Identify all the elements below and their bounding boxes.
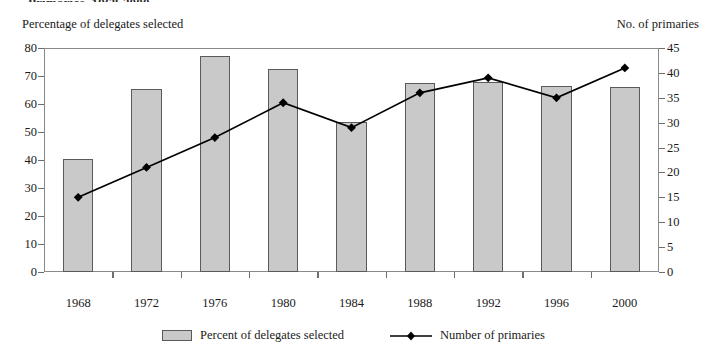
x-axis-label: 2000: [612, 296, 637, 311]
y-tick-label-right: 0: [667, 266, 673, 279]
line-marker-diamond: [279, 98, 288, 107]
y-tick-label-left: 10: [25, 238, 38, 251]
line-marker-diamond: [74, 193, 83, 202]
y-tick-label-left: 40: [25, 154, 38, 167]
y-tick-label-right: 15: [667, 191, 680, 204]
x-axis-label: 1972: [134, 296, 159, 311]
x-tick-mark: [317, 272, 318, 278]
y-tick-label-left: 70: [25, 70, 38, 83]
y-tick-label-right: 40: [667, 67, 680, 80]
y-tick-label-left: 20: [25, 210, 38, 223]
y-tick-label-left: 30: [25, 182, 38, 195]
chart-title-clipped: Primaries, 1968-2000: [28, 0, 150, 2]
x-axis-label: 1996: [544, 296, 569, 311]
right-axis-caption: No. of primaries: [617, 17, 699, 32]
x-axis-label: 1984: [339, 296, 364, 311]
y-tick-mark-left: [38, 272, 44, 273]
line-marker-diamond: [552, 93, 561, 102]
y-tick-label-right: 10: [667, 216, 680, 229]
line-marker-diamond: [347, 123, 356, 132]
chart-legend: Percent of delegates selected Number of …: [0, 328, 707, 343]
x-tick-mark: [522, 272, 523, 278]
plot-area: 01020304050607080 051015202530354045: [44, 48, 659, 272]
line-marker-diamond: [620, 64, 629, 73]
y-tick-label-right: 45: [667, 42, 680, 55]
y-tick-mark-right: [659, 272, 665, 273]
y-tick-label-right: 20: [667, 166, 680, 179]
y-tick-mark-right: [659, 172, 665, 173]
legend-item-bars: Percent of delegates selected: [162, 328, 344, 343]
line-series: [44, 48, 659, 272]
y-tick-label-left: 60: [25, 98, 38, 111]
y-tick-label-left: 0: [31, 266, 37, 279]
line-swatch-icon: [390, 330, 432, 342]
bar-swatch-icon: [162, 330, 192, 341]
y-tick-label-right: 5: [667, 241, 673, 254]
line-path: [78, 68, 625, 197]
x-axis-label: 1992: [476, 296, 501, 311]
y-tick-mark-right: [659, 247, 665, 248]
x-tick-mark: [386, 272, 387, 278]
y-tick-mark-right: [659, 123, 665, 124]
x-tick-mark: [249, 272, 250, 278]
x-axis-label: 1988: [407, 296, 432, 311]
y-tick-mark-right: [659, 98, 665, 99]
legend-label-bars: Percent of delegates selected: [200, 328, 344, 343]
line-marker-diamond: [415, 88, 424, 97]
y-tick-label-left: 80: [25, 42, 38, 55]
y-tick-label-right: 35: [667, 92, 680, 105]
line-marker-diamond: [210, 133, 219, 142]
x-tick-mark: [591, 272, 592, 278]
line-marker-diamond: [484, 73, 493, 82]
y-tick-mark-right: [659, 148, 665, 149]
y-tick-mark-right: [659, 222, 665, 223]
y-tick-label-right: 25: [667, 141, 680, 154]
y-tick-label-left: 50: [25, 126, 38, 139]
chart-figure: Primaries, 1968-2000 Percentage of deleg…: [0, 0, 707, 354]
left-axis-caption: Percentage of delegates selected: [22, 17, 183, 32]
legend-item-line: Number of primaries: [390, 328, 545, 343]
x-tick-mark: [112, 272, 113, 278]
x-tick-mark: [181, 272, 182, 278]
y-tick-mark-right: [659, 197, 665, 198]
x-axis-label: 1968: [66, 296, 91, 311]
x-axis-label: 1976: [202, 296, 227, 311]
x-tick-mark: [454, 272, 455, 278]
legend-label-line: Number of primaries: [440, 328, 545, 343]
x-axis-label: 1980: [271, 296, 296, 311]
y-tick-mark-right: [659, 73, 665, 74]
y-tick-label-right: 30: [667, 116, 680, 129]
line-marker-diamond: [142, 163, 151, 172]
y-tick-mark-right: [659, 48, 665, 49]
